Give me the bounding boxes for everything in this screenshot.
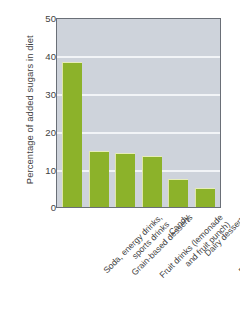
bar-fruit-drinks xyxy=(115,153,135,207)
bar-grain-based-desserts xyxy=(89,151,109,207)
y-axis-title: Percentage of added sugars in diet xyxy=(25,10,34,210)
figure-caption xyxy=(14,320,228,328)
bar-series xyxy=(57,19,220,207)
y-tick-label-40: 40 xyxy=(34,52,56,62)
plot-area xyxy=(56,18,221,208)
y-tick-label-10: 10 xyxy=(34,166,56,176)
bar-chart-figure: Percentage of added sugars in diet 50 40… xyxy=(0,0,240,329)
bar-dairy-desserts xyxy=(168,179,188,207)
y-tick-label-50: 50 xyxy=(34,14,56,24)
bar-candy xyxy=(142,156,162,208)
y-tick-label-30: 30 xyxy=(34,90,56,100)
bar-soda-energy-sports-drinks xyxy=(62,62,82,207)
bar-ready-to-eat-cereals xyxy=(195,188,215,207)
y-tick-label-0: 0 xyxy=(34,203,56,213)
y-tick-label-20: 20 xyxy=(34,128,56,138)
